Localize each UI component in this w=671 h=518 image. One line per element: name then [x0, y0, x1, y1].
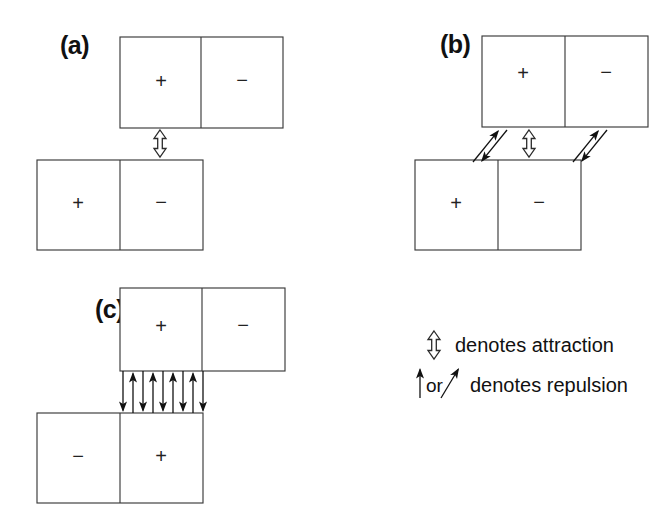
- legend-repulsion-connector: or: [426, 375, 444, 396]
- panel-c-top-cell-0-sign: +: [155, 315, 167, 337]
- panel-a-top-cell-0-sign: +: [155, 70, 167, 92]
- panel-a-bottom-cell-0-sign: +: [72, 192, 84, 214]
- panel-a-top-block: +−: [120, 37, 283, 128]
- panel-a-bottom-block: +−: [37, 160, 203, 250]
- legend-repulsion-label: denotes repulsion: [470, 374, 628, 396]
- panel-c-bottom-cell-1-sign: +: [155, 445, 167, 467]
- domain-interaction-diagram: (a)+−+−(b)+−+−(c)+−−+ denotes attraction…: [0, 0, 671, 518]
- figure-canvas: (a)+−+−(b)+−+−(c)+−−+ denotes attraction…: [0, 0, 671, 518]
- panel-a-bottom-cell-1-sign: −: [155, 191, 167, 213]
- panel-c-bottom-block: −+: [37, 413, 203, 503]
- panel-c-top-block: +−: [120, 288, 285, 371]
- panel-b-bottom-cell-1-sign: −: [533, 191, 545, 213]
- legend-attraction-label: denotes attraction: [455, 334, 614, 356]
- panel-b-bottom-cell-0-sign: +: [450, 192, 462, 214]
- panel-b-top-cell-0-sign: +: [517, 62, 529, 84]
- panel-b-bottom-block: +−: [415, 160, 581, 250]
- panel-c-top-cell-1-sign: −: [237, 314, 249, 336]
- panel-a-label: (a): [60, 31, 89, 59]
- panel-b-label: (b): [440, 30, 471, 58]
- panel-c-bottom-cell-0-sign: −: [72, 445, 84, 467]
- panel-b-top-cell-1-sign: −: [600, 61, 612, 83]
- panel-b-top-block: +−: [482, 36, 648, 127]
- legend-entry-attraction: denotes attraction: [428, 331, 614, 359]
- panel-a-top-cell-1-sign: −: [236, 69, 248, 91]
